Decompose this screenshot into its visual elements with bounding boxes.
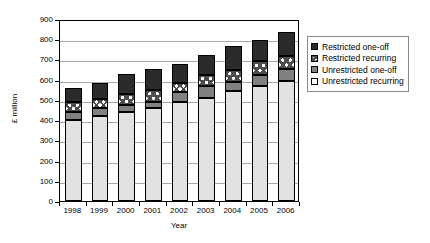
y-tick-label: 700 [40,56,53,64]
y-tick-label: 900 [40,16,53,24]
legend-item-label: Restricted one-off [322,42,389,52]
bar-segment [118,105,135,112]
legend-swatch-icon [311,66,318,73]
x-tick-label-1999: 1999 [86,206,112,215]
bar-segment [278,69,295,81]
x-tick-label-2001: 2001 [139,206,165,215]
legend-item-label: Unrestricted recurring [322,76,404,86]
legend: Restricted one-offRestricted recurringUn… [307,36,409,92]
x-tick-mark [299,202,300,206]
bar-segment [198,86,215,98]
bar-2004 [225,19,242,201]
bar-segment [65,88,82,102]
bar-segment [145,69,162,91]
legend-item-label: Unrestricted one-off [322,65,397,75]
x-tick-label-2004: 2004 [219,206,245,215]
x-tick-label-1998: 1998 [59,206,85,215]
y-axis-title: £ million [10,79,19,139]
legend-item-unrestricted-recurring[interactable]: Unrestricted recurring [311,76,404,86]
bar-2001 [145,19,162,201]
bar-1998 [65,19,82,201]
x-tick-label-2000: 2000 [113,206,139,215]
x-tick-label-2002: 2002 [166,206,192,215]
bar-segment [225,82,242,91]
bar-segment [198,55,215,75]
y-tick-label: 800 [40,36,53,44]
bar-segment [92,99,109,109]
y-tick-label: 300 [40,137,53,145]
legend-swatch-icon [311,55,318,62]
bar-segment [225,46,242,70]
bar-segment [278,56,295,69]
bar-segment [118,112,135,201]
bar-segment [252,40,269,62]
bar-segment [278,81,295,201]
legend-item-restricted-recurring[interactable]: Restricted recurring [311,53,404,63]
x-tick-label-2003: 2003 [193,206,219,215]
bar-2003 [198,19,215,201]
bar-segment [172,92,189,103]
bar-segment [278,32,295,56]
bar-segment [172,64,189,84]
bar-segment [92,108,109,116]
bar-segment [92,116,109,201]
bar-segment [92,83,109,99]
bar-segment [65,112,82,120]
bar-segment [65,120,82,201]
bar-segment [172,83,189,91]
bar-segment [145,102,162,108]
bar-segment [252,61,269,75]
legend-swatch-icon [311,78,318,85]
legend-item-restricted-oneoff[interactable]: Restricted one-off [311,42,404,52]
bar-2002 [172,19,189,201]
chart-container: 0100200300400500600700800900 £ million 1… [0,0,430,243]
bar-1999 [92,19,109,201]
y-tick-label: 200 [40,158,53,166]
x-tick-label-2006: 2006 [273,206,299,215]
bar-segment [118,74,135,94]
y-tick-label: 100 [40,178,53,186]
legend-swatch-icon [311,43,318,50]
bar-segment [198,75,215,86]
legend-item-unrestricted-oneoff[interactable]: Unrestricted one-off [311,65,404,75]
bar-segment [225,70,242,82]
bar-segment [145,108,162,201]
x-tick-label-2005: 2005 [246,206,272,215]
bar-2006 [278,19,295,201]
plot-area [59,20,299,202]
legend-item-label: Restricted recurring [322,53,396,63]
bar-segment [198,98,215,201]
bar-segment [252,75,269,86]
y-tick-label: 400 [40,117,53,125]
bar-2005 [252,19,269,201]
bar-segment [65,102,82,112]
bar-segment [172,102,189,201]
y-tick-label: 0 [49,198,53,206]
y-tick-label: 600 [40,77,53,85]
bar-segment [118,94,135,105]
bar-segment [252,86,269,201]
x-axis-title: Year [59,221,299,230]
bar-2000 [118,19,135,201]
bar-segment [225,91,242,201]
y-tick-label: 500 [40,97,53,105]
bar-segment [145,90,162,102]
